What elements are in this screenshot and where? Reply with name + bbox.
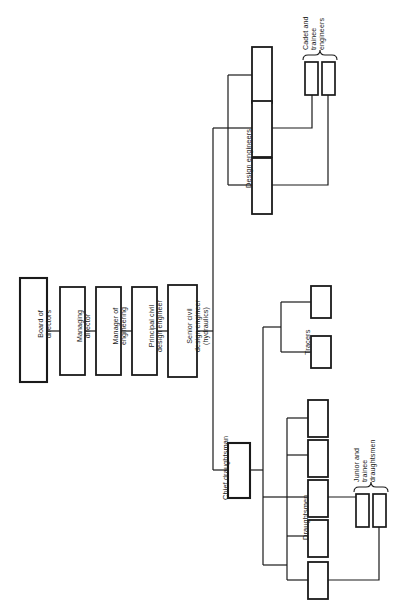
- label-design-engineers-group: Design engineers: [245, 88, 253, 188]
- label-board-of-directors: Board of directors: [38, 276, 54, 372]
- label-tracers-group: Tracers: [304, 295, 312, 355]
- design-engineer-box-3: [252, 158, 272, 214]
- label-managing-director: Managing director: [77, 285, 93, 367]
- cadet-trainee-engineer-box-1: [305, 62, 318, 95]
- tracer-box-2: [311, 336, 331, 368]
- design-engineer-box-1: [252, 47, 272, 103]
- draughtsman-box-1: [308, 400, 328, 437]
- draughtsman-box-5: [308, 562, 328, 599]
- cadet-link-from-box-2: [272, 95, 312, 128]
- tracer-box-1: [311, 286, 331, 318]
- junior-trainee-draughtsman-box-1: [356, 494, 369, 527]
- draughtsman-box-3: [308, 480, 328, 517]
- label-cadet-and-trainee-engineers: Cadet and trainee engineers: [303, 0, 327, 50]
- label-principal-civil-design-engineer: Principal civil design engineer: [149, 285, 165, 367]
- draughtsman-box-2: [308, 440, 328, 477]
- cadet-trainee-brace: [303, 50, 337, 60]
- label-senior-civil-design-engineer: Senior civil design engineer (hydraulics…: [187, 283, 211, 369]
- junior-link-from-box-5: [328, 527, 379, 580]
- junior-trainee-brace: [354, 482, 388, 492]
- label-junior-and-trainee-draughtsmen: Junior and trainee draughtsmen: [354, 424, 378, 482]
- cadet-trainee-engineer-box-2: [322, 62, 335, 95]
- design-engineer-box-2: [252, 101, 272, 157]
- node-box-chief-draughtsman: [228, 443, 250, 498]
- cadet-link-from-box-3: [272, 95, 328, 185]
- label-draughtsmen-group: Draughtsmen: [302, 460, 310, 540]
- label-manager-of-engineering: Manager of engineering: [113, 285, 129, 367]
- draughtsman-box-4: [308, 520, 328, 557]
- junior-trainee-draughtsman-box-2: [373, 494, 386, 527]
- org-chart: Board of directors Managing director Man…: [0, 0, 411, 615]
- label-chief-draughtsman: Chief draughtsman: [222, 395, 230, 500]
